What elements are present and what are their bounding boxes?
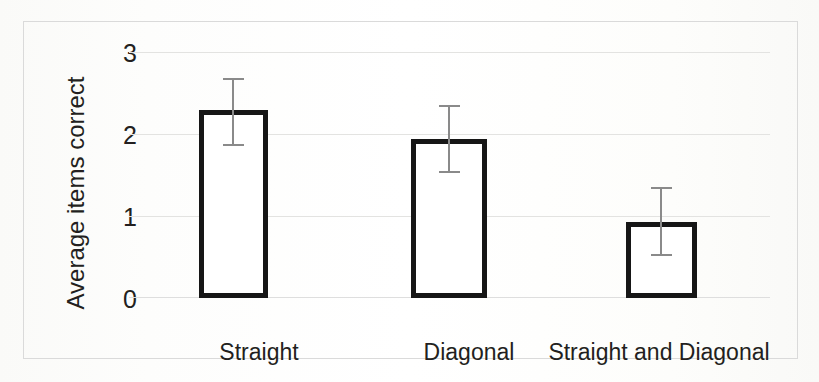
error-bar-stem <box>232 78 234 146</box>
error-bar-cap-bottom <box>651 254 672 256</box>
y-axis-title: Average items correct <box>62 43 90 343</box>
error-bar-cap-top <box>439 105 460 107</box>
chart-frame: Average items correct 3 2 1 0 <box>23 21 798 359</box>
gridline-3 <box>129 52 770 53</box>
error-bar-cap-top <box>223 78 244 80</box>
error-bar-cap-bottom <box>223 144 244 146</box>
error-bar-stem <box>660 187 662 256</box>
x-label-straight-and-diagonal: Straight and Diagonal <box>544 340 774 365</box>
error-bar-cap-top <box>651 187 672 189</box>
error-bar-cap-bottom <box>439 171 460 173</box>
x-label-straight: Straight <box>144 340 374 365</box>
plot-area <box>129 52 770 298</box>
chart-screenshot: Average items correct 3 2 1 0 <box>0 0 819 382</box>
error-bar-stem <box>448 105 450 173</box>
